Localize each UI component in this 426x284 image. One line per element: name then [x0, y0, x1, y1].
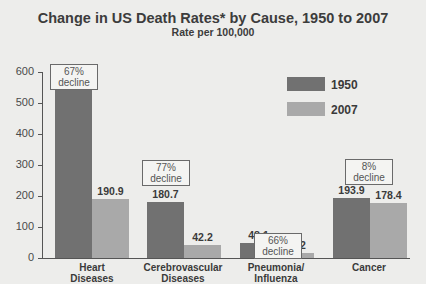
x-axis	[42, 258, 410, 259]
y-tick-label: 600	[0, 65, 34, 77]
category-label: Pneumonia/ Influenza	[226, 262, 326, 284]
decline-annotation: 66%decline	[254, 233, 302, 259]
y-tick-label: 100	[0, 220, 34, 232]
y-tick	[38, 103, 42, 104]
category-label: Cancer	[319, 262, 419, 273]
decline-annotation: 67%decline	[50, 64, 98, 90]
y-tick-label: 500	[0, 96, 34, 108]
bar-value-label: 180.7	[144, 188, 188, 200]
y-tick	[38, 165, 42, 166]
category-line-2: Diseases	[42, 273, 142, 284]
y-tick	[38, 196, 42, 197]
category-line-2: Influenza	[226, 273, 326, 284]
bar-1950	[55, 76, 92, 258]
legend-label-1950: 1950	[331, 78, 358, 92]
legend-label-2007: 2007	[331, 103, 358, 117]
category-line-1: Pneumonia/	[226, 262, 326, 273]
y-tick	[38, 258, 42, 259]
category-line-1: Cancer	[319, 262, 419, 273]
bar-value-label: 42.2	[181, 231, 225, 243]
decline-annotation: 8%decline	[345, 159, 393, 185]
bar-1950	[147, 202, 184, 258]
bar-2007	[370, 203, 407, 258]
bar-2007	[92, 199, 129, 258]
category-label: Cerebrovascular Diseases	[133, 262, 233, 284]
y-tick	[38, 227, 42, 228]
bar-value-label: 178.4	[367, 189, 411, 201]
y-tick-label: 400	[0, 127, 34, 139]
y-tick-label: 300	[0, 158, 34, 170]
category-line-1: Heart	[42, 262, 142, 273]
decline-annotation: 77%decline	[142, 160, 190, 186]
y-axis	[42, 72, 43, 259]
bar-value-label: 190.9	[89, 185, 133, 197]
y-tick-label: 200	[0, 189, 34, 201]
category-line-2: Diseases	[133, 273, 233, 284]
category-line-1: Cerebrovascular	[133, 262, 233, 273]
y-tick	[38, 72, 42, 73]
y-tick-label: 0	[0, 251, 34, 263]
legend-swatch-2007	[287, 102, 325, 116]
category-label: Heart Diseases	[42, 262, 142, 284]
plot-area: 1950 2007 Heart Diseases Cerebrovascular…	[0, 0, 426, 284]
y-tick	[38, 134, 42, 135]
legend-swatch-1950	[287, 77, 325, 91]
bar-2007	[184, 245, 221, 258]
bar-1950	[333, 198, 370, 258]
